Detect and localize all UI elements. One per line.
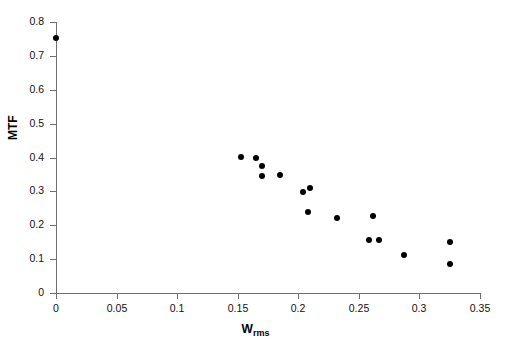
- plot-area: [56, 22, 480, 293]
- data-point: [305, 209, 311, 215]
- x-tick-label: 0.3: [394, 302, 444, 314]
- y-tick-label: 0.3: [0, 184, 44, 196]
- data-point: [366, 237, 372, 243]
- y-tick-label: 0.2: [0, 218, 44, 230]
- x-tick-label: 0.35: [455, 302, 505, 314]
- data-point: [401, 252, 407, 258]
- data-point: [447, 239, 453, 245]
- data-point: [447, 261, 453, 267]
- x-tick-label: 0.05: [92, 302, 142, 314]
- x-axis-line: [56, 293, 481, 294]
- x-tick-mark: [480, 293, 481, 299]
- data-point: [259, 163, 265, 169]
- y-tick-label: 0.1: [0, 252, 44, 264]
- x-tick-mark: [359, 293, 360, 299]
- y-axis-title: MTF: [6, 115, 20, 140]
- x-tick-label: 0.15: [213, 302, 263, 314]
- x-tick-mark: [177, 293, 178, 299]
- y-tick-label: 0.4: [0, 151, 44, 163]
- y-tick-label: 0.8: [0, 15, 44, 27]
- x-tick-mark: [117, 293, 118, 299]
- scatter-chart: 00.10.20.30.40.50.60.70.8 00.050.10.150.…: [0, 0, 511, 346]
- x-tick-label: 0.1: [152, 302, 202, 314]
- x-axis-title-subscript: rms: [253, 328, 270, 338]
- x-tick-label: 0.2: [273, 302, 323, 314]
- x-tick-mark: [238, 293, 239, 299]
- x-axis-title-main: W: [242, 322, 253, 336]
- x-axis-title: Wrms: [0, 322, 511, 336]
- x-tick-label: 0: [31, 302, 81, 314]
- y-tick-label: 0: [0, 286, 44, 298]
- x-tick-label: 0.25: [334, 302, 384, 314]
- y-tick-label: 0.6: [0, 83, 44, 95]
- x-tick-mark: [419, 293, 420, 299]
- x-tick-mark: [56, 293, 57, 299]
- y-tick-label: 0.7: [0, 49, 44, 61]
- x-tick-mark: [298, 293, 299, 299]
